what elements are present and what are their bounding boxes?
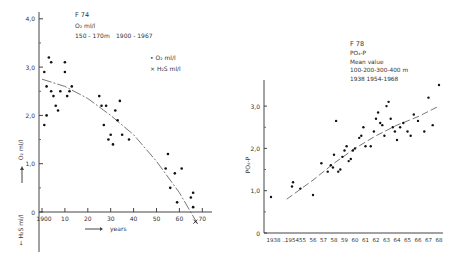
data-point-o2 xyxy=(190,196,193,199)
data-point xyxy=(292,181,294,183)
legend-item-h2s: × H₂S ml/l xyxy=(150,65,181,72)
x-tick-label: 61 xyxy=(362,237,369,243)
x-tick-label: 63 xyxy=(383,237,390,243)
x-tick-label: 64 xyxy=(394,237,401,243)
data-point-o2 xyxy=(43,124,46,127)
x-tick-label: 50 xyxy=(153,215,161,222)
data-point xyxy=(341,156,343,158)
data-point-o2 xyxy=(98,95,101,98)
data-point-o2 xyxy=(107,138,110,141)
x-tick-label: 62 xyxy=(373,237,380,243)
x-axis-label: years xyxy=(110,225,127,233)
y-tick-label: 1,0 xyxy=(25,160,35,167)
data-point xyxy=(350,158,352,160)
y-tick-label: 0 xyxy=(31,209,35,216)
data-point xyxy=(327,170,329,172)
y-axis-label: PO₄-P xyxy=(244,156,251,173)
data-point xyxy=(348,160,350,162)
data-point xyxy=(270,196,272,198)
x-tick-label: 59 xyxy=(341,237,348,243)
data-point xyxy=(385,105,387,107)
data-point-o2 xyxy=(112,143,115,146)
y-axis-label-h2s: ← H₂S ml/l xyxy=(17,214,24,245)
data-point-o2 xyxy=(57,109,60,112)
data-point-o2 xyxy=(45,114,48,117)
data-point-o2 xyxy=(128,138,131,141)
data-point-o2 xyxy=(48,56,51,59)
x-tick-label: 57 xyxy=(320,237,327,243)
chart-f74-group: 01,02,03,04,0190010203040506070yearsO₂ m… xyxy=(17,11,212,252)
x-tick-label: 60 xyxy=(352,237,359,243)
data-point-o2 xyxy=(192,206,195,209)
x-tick-label: 58 xyxy=(331,237,338,243)
data-point xyxy=(312,194,314,196)
data-point-o2 xyxy=(100,104,103,107)
trend-line xyxy=(287,106,439,199)
data-point xyxy=(427,96,429,98)
x-tick-label: 67 xyxy=(425,237,432,243)
y-tick-label: 1,0 xyxy=(250,187,260,194)
data-point xyxy=(392,126,394,128)
data-point-o2 xyxy=(164,167,167,170)
data-point xyxy=(399,126,401,128)
y-tick-label: 3,0 xyxy=(25,64,35,71)
data-point-o2 xyxy=(176,201,179,204)
chart-title: F 78 xyxy=(350,40,364,48)
data-point xyxy=(339,168,341,170)
data-point-o2 xyxy=(54,104,57,107)
data-point xyxy=(396,139,398,141)
data-point xyxy=(337,170,339,172)
data-point xyxy=(394,130,396,132)
data-point xyxy=(335,120,337,122)
legend-item-o2: • O₂ ml/l xyxy=(150,54,176,61)
x-tick-label: 1900 xyxy=(36,215,51,222)
subtitle-line: 150 - 170m xyxy=(75,32,110,39)
x-tick-label: 65 xyxy=(404,237,411,243)
y-tick-label: 2,0 xyxy=(250,145,260,152)
data-point xyxy=(409,135,411,137)
data-point xyxy=(383,135,385,137)
data-point-o2 xyxy=(43,71,46,74)
x-tick-label: 68 xyxy=(436,237,443,243)
x-tick-label: 56 xyxy=(310,237,317,243)
data-point xyxy=(373,130,375,132)
data-point xyxy=(381,124,383,126)
data-point-o2 xyxy=(70,85,73,88)
data-point xyxy=(299,187,301,189)
data-point xyxy=(423,130,425,132)
x-tick-label: 55 xyxy=(299,237,306,243)
x-tick-label: 10 xyxy=(61,215,69,222)
data-point xyxy=(438,84,440,86)
data-point xyxy=(360,135,362,137)
data-point xyxy=(390,118,392,120)
y-tick-label: 0 xyxy=(256,230,260,237)
data-point-o2 xyxy=(64,61,67,64)
x-tick-label: 60 xyxy=(176,215,184,222)
data-point xyxy=(375,118,377,120)
data-point xyxy=(387,101,389,103)
data-point-o2 xyxy=(174,172,177,175)
y-tick-label: 3,0 xyxy=(250,103,260,110)
data-point xyxy=(354,147,356,149)
data-point xyxy=(332,166,334,168)
data-point xyxy=(402,122,404,124)
data-point-o2 xyxy=(116,119,119,122)
subtitle-line: PO₄-P xyxy=(350,50,366,56)
data-point-o2 xyxy=(50,61,53,64)
data-point xyxy=(345,145,347,147)
subtitle-line: 1900 - 1967 xyxy=(116,32,153,39)
data-point-o2 xyxy=(109,133,112,136)
data-point xyxy=(333,154,335,156)
x-tick-label: 66 xyxy=(415,237,422,243)
subtitle-line: O₂ ml/l xyxy=(75,22,96,29)
x-tick-label: 70 xyxy=(198,215,206,222)
data-point-o2 xyxy=(50,90,53,93)
data-point xyxy=(330,164,332,166)
data-point-o2 xyxy=(105,104,108,107)
data-point xyxy=(362,126,364,128)
data-point-o2 xyxy=(52,95,55,98)
data-point-o2 xyxy=(169,187,172,190)
data-point-o2 xyxy=(103,124,106,127)
data-point xyxy=(291,185,293,187)
data-point xyxy=(432,124,434,126)
